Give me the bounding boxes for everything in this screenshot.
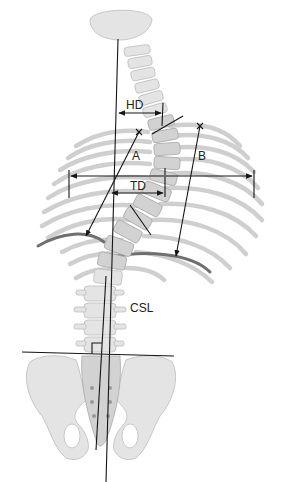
label-hd: HD bbox=[126, 98, 144, 112]
label-a: A bbox=[132, 149, 140, 163]
spine-diagram: HD A B TD CSL bbox=[0, 0, 287, 482]
label-td: TD bbox=[130, 179, 146, 193]
spine bbox=[74, 44, 180, 352]
label-b: B bbox=[198, 149, 206, 163]
skull bbox=[90, 10, 152, 40]
pelvic-line bbox=[22, 352, 174, 356]
label-csl: CSL bbox=[130, 301, 154, 315]
